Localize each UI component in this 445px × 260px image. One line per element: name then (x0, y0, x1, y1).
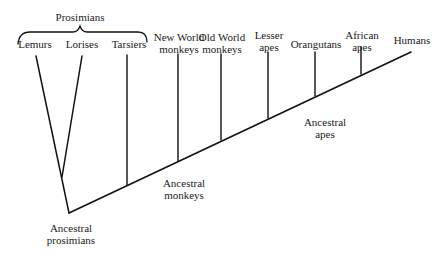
taxon-label-lesser-apes-line1: Lesser (255, 30, 284, 41)
ancestor-label-apes-line1: Ancestral (304, 117, 346, 128)
taxon-label-lesser-apes-line2: apes (259, 42, 279, 53)
taxon-label-lemurs: Lemurs (18, 39, 52, 50)
taxon-label-tarsiers: Tarsiers (112, 39, 147, 50)
taxon-label-humans: Humans (394, 35, 431, 46)
main-trunk-line (69, 52, 411, 213)
taxon-label-lorises: Lorises (66, 39, 98, 50)
taxon-label-african-apes-line1: African (345, 30, 379, 41)
taxon-label-african-apes-line2: apes (352, 42, 372, 53)
ancestor-label-apes-line2: apes (315, 129, 335, 140)
taxon-label-old-world-monkeys-line2: monkeys (202, 44, 242, 55)
taxon-label-old-world-monkeys-line1: Old World (199, 32, 245, 43)
taxon-label-orangutans: Orangutans (291, 39, 342, 50)
ancestor-label-prosimians-line1: Ancestral (50, 223, 92, 234)
taxon-label-new-world-monkeys-line2: monkeys (159, 44, 199, 55)
ancestor-label-monkeys-line2: monkeys (164, 190, 204, 201)
branch-lemurs (36, 56, 69, 213)
prosimians-group-label: Prosimians (56, 12, 105, 23)
phylogeny-diagram: Prosimians Lemurs Lorises Tarsiers New W… (0, 0, 445, 260)
ancestor-label-monkeys-line1: Ancestral (163, 178, 205, 189)
branch-lorises (62, 56, 82, 177)
ancestor-label-prosimians-line2: prosimians (47, 235, 95, 246)
taxon-label-new-world-monkeys-line1: New World (154, 32, 205, 43)
